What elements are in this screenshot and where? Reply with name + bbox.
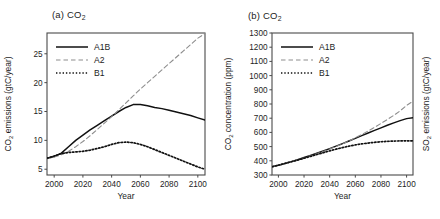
y-axis-title-right: SO2 emissions (gtC/year) (421, 57, 432, 152)
x-tick-label: 2100 (397, 180, 416, 189)
y-tick-label: 20 (33, 79, 43, 88)
y-tick-label: 1100 (250, 57, 268, 66)
x-tick-label: 2040 (103, 180, 122, 189)
y-axis-title: CO2 emissions (gtC/year) (3, 56, 14, 151)
x-tick-label: 2000 (45, 180, 64, 189)
series-line-a2 (47, 34, 205, 159)
y-tick-label: 1200 (249, 43, 268, 52)
legend: A1BA2B1 (56, 42, 111, 78)
x-tick-label: 2100 (189, 180, 208, 189)
x-tick-label: 2000 (269, 180, 288, 189)
y-tick-label: 800 (254, 100, 268, 109)
legend-label-b1: B1 (319, 68, 330, 78)
legend: A1BA2B1 (281, 42, 336, 78)
legend-label-a1b: A1B (94, 42, 111, 52)
series-line-b1 (47, 142, 205, 169)
y-tick-label: 500 (254, 143, 268, 152)
series-line-a1b (272, 118, 413, 167)
panel-b-plot: 3004005006007008009001000110012001300200… (220, 0, 440, 219)
legend-label-a2: A2 (94, 55, 105, 65)
y-tick-label: 600 (254, 128, 268, 137)
legend-label-a1b: A1B (319, 42, 336, 52)
panel-a-plot: 510152025200020202040206020802100YearCO2… (0, 0, 220, 219)
x-axis-title: Year (334, 191, 351, 201)
y-tick-label: 700 (254, 114, 268, 123)
y-tick-label: 900 (254, 86, 268, 95)
y-tick-label: 5 (38, 165, 43, 174)
x-tick-label: 2080 (372, 180, 391, 189)
panel-b: (b) CO2 30040050060070080090010001100120… (220, 0, 440, 219)
legend-label-a2: A2 (319, 55, 330, 65)
x-tick-label: 2020 (295, 180, 314, 189)
series-line-b1 (272, 141, 413, 167)
y-tick-label: 300 (254, 171, 268, 180)
x-tick-label: 2020 (74, 180, 93, 189)
panel-a: (a) CO2 51015202520002020204020602080210… (0, 0, 220, 219)
y-tick-label: 25 (33, 50, 43, 59)
x-tick-label: 2060 (131, 180, 150, 189)
legend-label-b1: B1 (94, 68, 105, 78)
x-axis-title: Year (118, 191, 135, 201)
x-tick-label: 2040 (321, 180, 340, 189)
y-tick-label: 15 (33, 107, 43, 116)
series-line-a2 (272, 101, 413, 167)
y-tick-label: 1300 (249, 29, 268, 38)
y-tick-label: 10 (33, 136, 43, 145)
y-axis-title: CO2 concentration (ppm) (223, 57, 234, 150)
y-tick-label: 400 (254, 157, 268, 166)
x-tick-label: 2080 (160, 180, 179, 189)
y-tick-label: 1000 (249, 72, 268, 81)
x-tick-label: 2060 (346, 180, 365, 189)
